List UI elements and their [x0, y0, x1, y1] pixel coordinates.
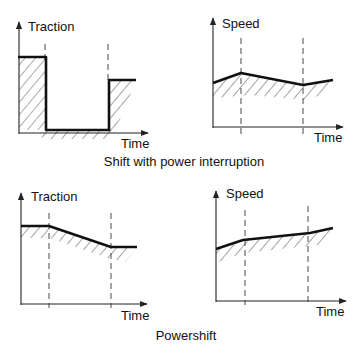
x-axis-label: Time [316, 304, 344, 319]
x-axis-label: Time [314, 130, 342, 145]
section-caption: Powershift [156, 328, 217, 343]
hatch-area [109, 81, 136, 138]
hatch-area [21, 226, 137, 262]
hatch-area [216, 228, 333, 263]
x-axis-label: Time [121, 308, 149, 323]
section-caption: Shift with power interruption [104, 154, 264, 169]
chart-speed-interruption: Speed Time [213, 16, 343, 145]
x-axis-label: Time [121, 136, 149, 151]
gearshift-diagram: Traction Time Speed Time Shift with powe… [0, 0, 358, 352]
y-axis-label: Traction [28, 19, 74, 34]
hatch-area [42, 130, 112, 139]
y-axis-label: Speed [222, 16, 260, 31]
chart-speed-powershift: Speed Time [216, 186, 346, 319]
y-axis-label: Speed [226, 186, 264, 201]
y-axis-label: Traction [31, 189, 77, 204]
chart-traction-interruption: Traction Time [18, 19, 149, 151]
chart-traction-powershift: Traction Time [21, 189, 149, 323]
hatch-area [19, 58, 46, 130]
